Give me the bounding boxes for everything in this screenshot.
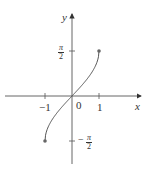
x-axis-label: x bbox=[135, 101, 140, 112]
arcsin-graph bbox=[0, 0, 151, 170]
y-axis-label: y bbox=[62, 12, 67, 23]
endpoint-lower bbox=[43, 139, 47, 143]
y-tick-minus-sign: − bbox=[78, 135, 84, 145]
x-tick-label-neg1: −1 bbox=[39, 102, 51, 113]
x-tick-label-pos1: 1 bbox=[97, 102, 103, 113]
endpoint-upper bbox=[97, 49, 101, 53]
y-tick-label-neg-pi-half: π 2 bbox=[86, 134, 92, 151]
origin-label: 0 bbox=[76, 100, 82, 111]
y-tick-label-pi-half: π 2 bbox=[58, 44, 64, 61]
